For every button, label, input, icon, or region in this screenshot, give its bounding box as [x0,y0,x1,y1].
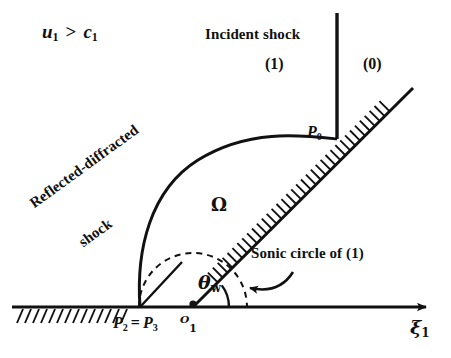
incident-shock-label: Incident shock [205,27,300,42]
flow-condition-label: u1>c1 [42,22,98,44]
p2-p3-equals: = [128,314,143,331]
wedge-angle-sub: w [211,281,221,295]
corner-detail-line [141,262,182,306]
p3-sub: 3 [153,322,158,333]
flow-condition-u-sub: 1 [53,30,59,44]
sonic-circle-dashed [139,253,247,307]
triple-point-sub: 0 [317,131,322,142]
shock-reflection-figure: u1>c1 Incident shock (1) (0) P0 Reflecte… [0,0,451,358]
sonic-circle-label: Sonic circle of (1) [251,246,364,261]
domain-omega-label: Ω [211,196,227,214]
origin-label: ᴼ1 [180,315,197,335]
sonic-circle-pointer-arrow [250,272,293,289]
origin-dot [189,300,196,307]
reflected-diffracted-shock-curve [139,136,337,307]
xi-base: ξ [410,316,421,338]
state-zero-label: (0) [363,56,382,72]
flow-condition-u: u [42,21,53,42]
origin-base: ᴼ [180,313,189,333]
xi-sub: 1 [421,326,429,340]
xi-axis-label: ξ1 [410,318,430,340]
triple-point-P: P [307,123,317,140]
flow-condition-c: c [83,21,91,42]
wedge-angle-label: θw [198,273,221,295]
p2-p3-label: P2=P3 [113,315,158,333]
flow-condition-c-sub: 1 [92,30,98,44]
triple-point-label: P0 [307,124,322,142]
origin-sub: 1 [189,322,196,335]
wall-hatching-left [17,309,127,323]
p2-base: P [113,314,123,331]
p3-base: P [143,314,153,331]
flow-condition-operator: > [59,21,84,42]
state-one-label: (1) [265,56,284,72]
wedge-angle-theta: θ [198,271,211,293]
wedge-angle-arc [222,285,229,307]
